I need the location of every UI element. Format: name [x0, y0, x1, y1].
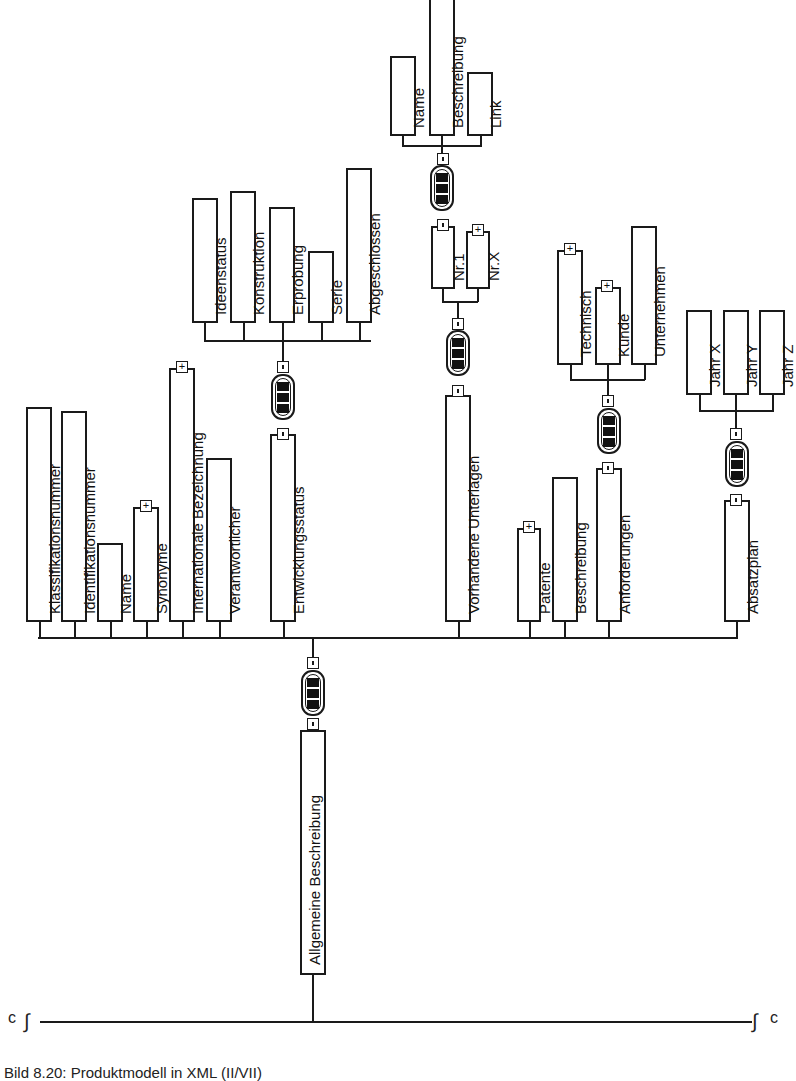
sequence-compositor: [725, 441, 749, 487]
break-mark-left: ∫: [24, 1011, 29, 1031]
node-kunde[interactable]: Kunde: [595, 287, 621, 365]
stem: [564, 621, 566, 638]
node-abgeschlossen[interactable]: Abgeschlossen: [346, 168, 372, 323]
label: Link: [488, 100, 504, 128]
node-verantwortlicher[interactable]: Verantwortlicher: [206, 458, 232, 622]
stem: [283, 621, 285, 638]
node-internationale-bezeichnung[interactable]: Internationale Bezeichnung: [169, 368, 195, 622]
node-absatzplan[interactable]: Absatzplan: [724, 500, 750, 622]
bottom-bus-line: [40, 1021, 752, 1023]
stem: [74, 621, 76, 638]
sequence-compositor-root: [301, 670, 325, 716]
node-name[interactable]: Name: [97, 543, 123, 622]
end-mark-left: c: [8, 1008, 16, 1028]
break-mark-right: ∫: [752, 1011, 757, 1031]
label: Jahr Y: [744, 344, 760, 387]
stem: [39, 621, 41, 638]
stem: [458, 621, 460, 638]
node-konstruktion[interactable]: Konstruktion: [230, 191, 256, 323]
branch-bus: [204, 340, 371, 342]
label: Name: [118, 574, 134, 614]
node-erprobung[interactable]: Erprobung: [269, 207, 295, 323]
node-doc-beschreibung[interactable]: Beschreibung: [429, 0, 455, 136]
label: Anforderungen: [617, 515, 633, 614]
label: Beschreibung: [573, 522, 589, 614]
label: Name: [411, 88, 427, 128]
stem: [736, 621, 738, 639]
label: Allgemeine Beschreibung: [307, 795, 322, 965]
main-bus-line: [38, 637, 738, 639]
node-jahr-x[interactable]: Jahr X: [686, 310, 712, 395]
collapse-icon[interactable]: [602, 462, 614, 474]
node-doc-link[interactable]: Link: [467, 72, 493, 136]
expand-icon[interactable]: +: [601, 280, 613, 292]
expand-icon[interactable]: +: [564, 243, 576, 255]
label: Jahr Z: [780, 344, 796, 387]
sequence-compositor: [446, 330, 470, 376]
node-serie[interactable]: Serie: [308, 251, 334, 323]
label: Serie: [329, 280, 345, 315]
stem: [282, 341, 284, 362]
node-entwicklungsstatus[interactable]: Entwicklungsstatus: [270, 434, 296, 622]
node-technisch[interactable]: Technisch: [557, 250, 583, 365]
node-unternehmen[interactable]: Unternehmen: [631, 226, 657, 365]
label: Synonyme: [154, 543, 170, 614]
label: Ideenstatus: [213, 237, 229, 315]
node-anforderungen[interactable]: Anforderungen: [596, 468, 622, 622]
label: Identifikationsnummer: [82, 467, 98, 614]
node-patente[interactable]: Patente: [517, 528, 541, 622]
label: Beschreibung: [450, 36, 466, 128]
node-beschreibung[interactable]: Beschreibung: [552, 477, 578, 622]
sequence-compositor: [597, 408, 621, 454]
sequence-compositor: [430, 165, 454, 211]
label: Entwicklungsstatus: [291, 486, 307, 614]
label: Nr.1: [451, 253, 467, 281]
collapse-icon[interactable]: [307, 718, 319, 730]
label: Abgeschlossen: [367, 213, 383, 315]
expand-icon[interactable]: +: [472, 224, 484, 236]
collapse-icon[interactable]: [437, 153, 449, 165]
label: Konstruktion: [251, 232, 267, 315]
expand-icon[interactable]: +: [523, 521, 535, 533]
node-identifikationsnummer[interactable]: Identifikationsnummer: [61, 411, 87, 622]
node-klassifikationsnummer[interactable]: Klassifikationsnummer: [26, 407, 52, 622]
end-mark-right: c: [770, 1008, 778, 1028]
node-doc-name[interactable]: Name: [390, 56, 416, 136]
label: Unternehmen: [652, 266, 668, 357]
collapse-icon[interactable]: [452, 385, 464, 397]
figure-caption: Bild 8.20: Produktmodell in XML (II/VII): [4, 1064, 262, 1081]
stem: [219, 621, 221, 638]
label: Erprobung: [290, 245, 306, 315]
label: Patente: [537, 562, 553, 614]
stem: [146, 621, 148, 638]
expand-icon[interactable]: +: [176, 361, 188, 373]
label: Internationale Bezeichnung: [190, 432, 206, 614]
collapse-icon[interactable]: [730, 494, 742, 506]
node-jahr-y[interactable]: Jahr Y: [723, 310, 749, 395]
label: Technisch: [578, 290, 594, 357]
label: Verantwortlicher: [227, 506, 243, 614]
collapse-icon[interactable]: [730, 428, 742, 440]
node-allgemeine-beschreibung[interactable]: Allgemeine Beschreibung: [300, 730, 326, 975]
stem: [529, 621, 531, 638]
stem: [110, 621, 112, 638]
collapse-icon[interactable]: [602, 395, 614, 407]
sequence-compositor: [271, 374, 295, 420]
node-ideenstatus[interactable]: Ideenstatus: [192, 198, 218, 323]
node-synonyme[interactable]: Synonyme: [133, 507, 159, 622]
node-nrx[interactable]: Nr.X: [466, 231, 490, 289]
collapse-icon[interactable]: [452, 318, 464, 330]
collapse-icon[interactable]: [277, 361, 289, 373]
stem: [182, 621, 184, 638]
node-vorhandene-unterlagen[interactable]: Vorhandene Unterlagen: [445, 395, 471, 622]
node-nr1[interactable]: Nr.1: [431, 226, 455, 289]
collapse-icon[interactable]: [307, 657, 319, 669]
node-jahr-z[interactable]: Jahr Z: [759, 310, 785, 395]
expand-icon[interactable]: +: [140, 500, 152, 512]
collapse-icon[interactable]: [437, 219, 449, 231]
branch-bus: [442, 301, 478, 303]
collapse-icon[interactable]: [277, 428, 289, 440]
label: Nr.X: [486, 252, 502, 281]
label: Jahr X: [707, 344, 723, 387]
root-stem: [312, 975, 314, 1022]
